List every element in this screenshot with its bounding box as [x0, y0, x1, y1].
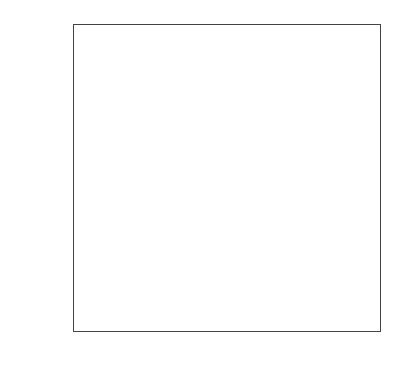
- heatmap-plot-area: [73, 24, 381, 332]
